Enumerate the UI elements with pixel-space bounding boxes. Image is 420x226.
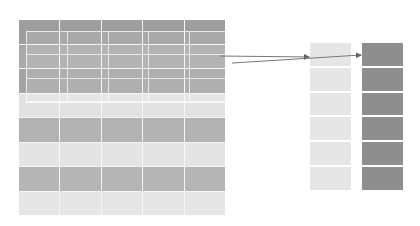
arrows [0,0,420,226]
arrow [220,56,309,57]
